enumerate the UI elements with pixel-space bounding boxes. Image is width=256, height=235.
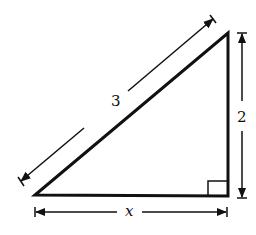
right-angle-marker <box>208 181 228 196</box>
horizontal-leg-label: x <box>125 202 134 220</box>
horizontal-leg-dimension: x <box>35 202 227 220</box>
right-triangle-diagram: 3 2 x <box>0 0 256 235</box>
vertical-leg-dimension: 2 <box>237 33 247 198</box>
triangle <box>35 33 228 196</box>
hypotenuse-dimension: 3 <box>18 15 216 186</box>
vertical-leg-label: 2 <box>237 108 247 126</box>
hypotenuse-label: 3 <box>111 92 121 110</box>
